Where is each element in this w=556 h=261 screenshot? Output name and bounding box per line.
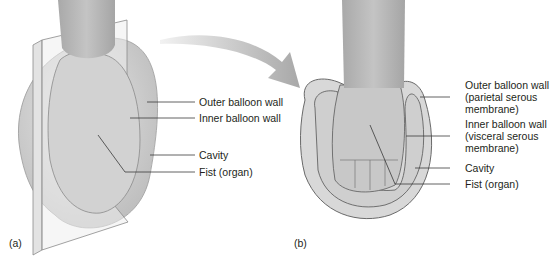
- panel-label-b: (b): [294, 237, 307, 249]
- transition-arrow-icon: [160, 35, 300, 88]
- label-outer-balloon-wall-a: Outer balloon wall: [199, 96, 283, 108]
- label-line: Outer balloon wall: [465, 79, 549, 91]
- label-line: Inner balloon wall: [465, 118, 547, 130]
- label-fist-organ-a: Fist (organ): [199, 166, 253, 178]
- panel-label-a: (a): [9, 237, 22, 249]
- label-fist-organ-b: Fist (organ): [465, 178, 519, 190]
- label-line: (parietal serous: [465, 91, 549, 103]
- label-outer-balloon-wall-b: Outer balloon wall (parietal serous memb…: [465, 79, 549, 115]
- label-cavity-a: Cavity: [199, 149, 228, 161]
- label-inner-balloon-wall-a: Inner balloon wall: [199, 112, 281, 124]
- label-line: membrane): [465, 142, 547, 154]
- label-line: membrane): [465, 103, 549, 115]
- label-cavity-b: Cavity: [465, 162, 494, 174]
- label-inner-balloon-wall-b: Inner balloon wall (visceral serous memb…: [465, 118, 547, 154]
- panel-b-illustration: [300, 0, 450, 219]
- label-line: (visceral serous: [465, 130, 547, 142]
